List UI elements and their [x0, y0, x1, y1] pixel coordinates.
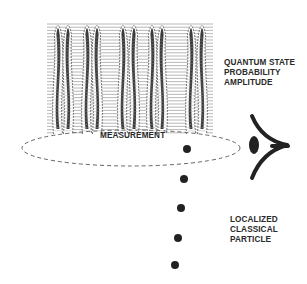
particle-dot	[174, 234, 182, 242]
measurement-label: MEASUREMENT	[100, 131, 165, 141]
particle-trajectory	[171, 145, 191, 269]
quantum-state-label: QUANTUM STATE PROBABILITY AMPLITUDE	[224, 58, 295, 88]
particle-dot	[180, 175, 188, 183]
classical-particle-label: LOCALIZED CLASSICAL PARTICLE	[230, 215, 278, 245]
eye-icon	[249, 116, 288, 178]
particle-dot	[183, 145, 191, 153]
particle-dot	[171, 261, 179, 269]
probability-amplitude-waves	[53, 26, 208, 135]
particle-dot	[177, 204, 185, 212]
